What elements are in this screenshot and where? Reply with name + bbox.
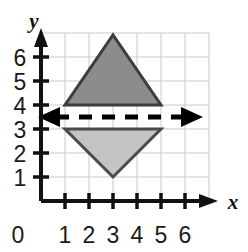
reflection-line-right-arrowhead [181, 107, 203, 127]
y-tick-labels: 1 2 3 4 5 6 [14, 45, 27, 191]
origin-label: 0 [12, 222, 25, 248]
x-tick-label-6: 6 [179, 222, 192, 248]
x-axis-label: x [227, 190, 239, 214]
x-axis [41, 193, 218, 209]
y-tick-label-1: 1 [14, 165, 27, 191]
line-of-reflection [38, 107, 203, 127]
y-tick-label-6: 6 [14, 45, 27, 71]
x-tick-label-4: 4 [131, 222, 144, 248]
y-tick-label-5: 5 [14, 69, 27, 95]
x-tick-label-5: 5 [155, 222, 168, 248]
coordinate-grid-figure: y x 0 1 2 3 4 5 6 1 2 3 4 5 6 [0, 0, 248, 252]
y-axis-label: y [26, 9, 39, 33]
x-tick-labels: 1 2 3 4 5 6 [59, 222, 192, 248]
y-tick-label-3: 3 [14, 117, 27, 143]
y-tick-label-4: 4 [14, 93, 27, 119]
x-tick-label-2: 2 [83, 222, 96, 248]
x-tick-label-1: 1 [59, 222, 72, 248]
x-tick-label-3: 3 [107, 222, 120, 248]
upper-triangle [65, 35, 161, 105]
y-tick-label-2: 2 [14, 141, 27, 167]
